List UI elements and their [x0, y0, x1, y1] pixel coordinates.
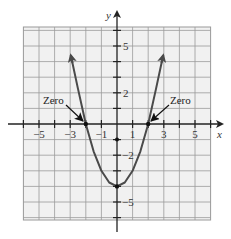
zero-annotation-left: Zero [43, 94, 64, 106]
zero-point-right [146, 122, 150, 126]
coordinate-plane: −5 −3 −1 1 3 5 5 2 −2 −5 x y Zero Zero [0, 0, 231, 239]
x-tick-label: −5 [33, 128, 45, 140]
y-tick-label: −2 [122, 149, 134, 161]
vertex-point [115, 184, 119, 188]
x-tick-label: −3 [64, 128, 76, 140]
x-tick-label: 5 [192, 128, 198, 140]
y-axis-point [115, 138, 119, 142]
x-tick-label: −1 [96, 128, 108, 140]
y-tick-label: 5 [123, 40, 129, 52]
zero-point-left [84, 122, 88, 126]
zero-annotation-right: Zero [170, 94, 191, 106]
x-tick-label: 3 [161, 128, 167, 140]
y-tick-label: 2 [123, 87, 129, 99]
y-tick-label: −5 [122, 196, 134, 208]
x-tick-label: 1 [130, 128, 136, 140]
x-axis-label: x [216, 128, 222, 140]
y-axis-label: y [105, 9, 111, 21]
